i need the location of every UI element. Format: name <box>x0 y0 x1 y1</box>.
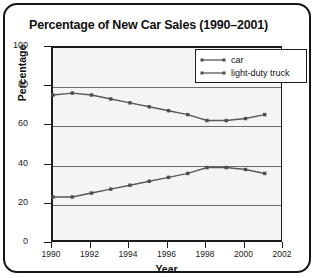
x-axis-title: Year <box>51 263 282 275</box>
y-tick-label: 20 <box>0 197 28 207</box>
series-marker <box>225 119 228 122</box>
x-tick-label: 1994 <box>108 249 148 259</box>
series-marker <box>148 105 151 108</box>
series-marker <box>148 180 151 183</box>
series-line-light-duty-truck <box>53 168 265 197</box>
y-tick-mark <box>44 242 51 243</box>
x-tick-mark <box>282 242 283 248</box>
x-tick-mark <box>244 242 245 248</box>
chart-title: Percentage of New Car Sales (1990–2001) <box>29 18 268 32</box>
legend-label-car: car <box>231 55 244 65</box>
series-marker <box>167 176 170 179</box>
y-tick-mark <box>44 203 51 204</box>
y-tick-label: 60 <box>0 118 28 128</box>
series-marker <box>90 191 93 194</box>
x-tick-label: 1990 <box>31 249 71 259</box>
series-marker <box>263 113 266 116</box>
chart-legend: car light-duty truck <box>195 49 307 83</box>
x-tick-mark <box>167 242 168 248</box>
series-marker <box>109 187 112 190</box>
series-marker <box>186 172 189 175</box>
series-marker <box>128 184 131 187</box>
legend-item-light-duty-truck: light-duty truck <box>199 66 302 79</box>
series-marker <box>167 109 170 112</box>
x-tick-label: 2000 <box>224 249 264 259</box>
y-tick-label: 40 <box>0 158 28 168</box>
y-tick-mark <box>44 164 51 165</box>
y-tick-mark <box>44 124 51 125</box>
series-marker <box>205 119 208 122</box>
x-tick-mark <box>128 242 129 248</box>
y-tick-label: 0 <box>0 236 28 246</box>
legend-item-car: car <box>199 53 302 66</box>
x-tick-label: 1992 <box>70 249 110 259</box>
series-marker <box>205 166 208 169</box>
series-marker <box>71 195 74 198</box>
series-marker <box>109 97 112 100</box>
y-axis-title: Percentage <box>16 18 28 128</box>
series-marker <box>51 195 54 198</box>
x-tick-mark <box>90 242 91 248</box>
series-marker <box>71 91 74 94</box>
series-marker <box>244 117 247 120</box>
series-marker <box>51 93 54 96</box>
y-tick-label: 80 <box>0 79 28 89</box>
series-marker <box>244 168 247 171</box>
legend-symbol-car <box>199 55 227 65</box>
x-tick-label: 2002 <box>262 249 302 259</box>
series-line-car <box>53 93 265 120</box>
x-tick-label: 1998 <box>185 249 225 259</box>
legend-label-light-duty-truck: light-duty truck <box>231 68 290 78</box>
chart-frame: Percentage of New Car Sales (1990–2001) … <box>3 3 311 273</box>
y-tick-mark <box>44 46 51 47</box>
series-marker <box>225 166 228 169</box>
series-marker <box>263 172 266 175</box>
series-marker <box>90 93 93 96</box>
legend-symbol-light-duty-truck <box>199 68 227 78</box>
x-tick-mark <box>51 242 52 248</box>
series-marker <box>128 101 131 104</box>
x-tick-mark <box>205 242 206 248</box>
x-tick-label: 1996 <box>147 249 187 259</box>
y-tick-label: 100 <box>0 40 28 50</box>
y-tick-mark <box>44 85 51 86</box>
series-marker <box>186 113 189 116</box>
